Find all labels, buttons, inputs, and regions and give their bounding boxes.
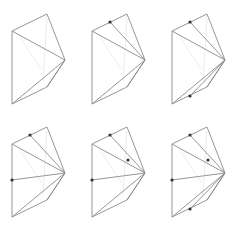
fan-edge bbox=[110, 135, 145, 173]
vertex-point bbox=[126, 158, 129, 161]
fan-edge bbox=[172, 31, 225, 60]
fan-edge bbox=[172, 144, 225, 173]
vertex-point bbox=[28, 133, 31, 136]
vertex-point bbox=[188, 207, 191, 210]
fan-edge bbox=[92, 31, 145, 60]
fan-edge bbox=[47, 60, 65, 87]
panel-6 bbox=[170, 127, 225, 217]
fan-edge bbox=[172, 173, 225, 217]
panel-4 bbox=[10, 127, 65, 217]
vertex-point bbox=[108, 20, 111, 23]
fan-edge bbox=[110, 22, 145, 60]
vertex-point bbox=[10, 178, 13, 181]
panel-1 bbox=[12, 14, 65, 104]
vertex-point bbox=[206, 158, 209, 161]
fan-edge bbox=[127, 173, 145, 200]
vertex-point bbox=[90, 178, 93, 181]
pentagon-outline bbox=[172, 14, 225, 104]
vertex-point bbox=[188, 20, 191, 23]
fan-edge bbox=[12, 60, 65, 104]
fan-edge bbox=[172, 173, 225, 180]
fan-edge bbox=[190, 22, 225, 60]
fan-edge bbox=[92, 144, 145, 173]
faint-guide-line bbox=[180, 37, 201, 69]
panel-5 bbox=[90, 127, 145, 217]
fan-edge bbox=[172, 60, 225, 104]
fan-edge bbox=[92, 173, 145, 217]
vertex-point bbox=[108, 133, 111, 136]
pentagon-outline bbox=[12, 14, 65, 104]
fan-edge bbox=[92, 173, 145, 180]
faint-guide-line bbox=[20, 37, 41, 69]
vertex-point bbox=[188, 94, 191, 97]
fan-edge bbox=[47, 173, 65, 200]
fan-edge bbox=[12, 144, 65, 173]
vertex-point bbox=[170, 178, 173, 181]
fan-edge bbox=[190, 173, 225, 209]
fan-edge bbox=[207, 60, 225, 87]
pentagon-outline bbox=[92, 14, 145, 104]
fan-edge bbox=[12, 31, 65, 60]
panel-3 bbox=[172, 14, 225, 104]
pentagon-outline bbox=[92, 127, 145, 217]
faint-guide-line bbox=[100, 37, 121, 69]
fan-edge bbox=[207, 173, 225, 200]
pentagon-outline bbox=[172, 127, 225, 217]
fan-edge bbox=[12, 173, 65, 217]
panel-2 bbox=[92, 14, 145, 104]
fan-edge bbox=[127, 60, 145, 87]
vertex-point bbox=[188, 133, 191, 136]
fan-edge bbox=[12, 173, 65, 180]
fan-edge bbox=[92, 60, 145, 104]
fan-edge bbox=[190, 135, 225, 173]
fan-edge bbox=[190, 60, 225, 96]
fan-edge bbox=[30, 135, 65, 173]
pentagon-outline bbox=[12, 127, 65, 217]
triangulation-diagram bbox=[0, 0, 240, 226]
